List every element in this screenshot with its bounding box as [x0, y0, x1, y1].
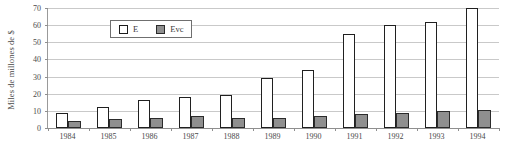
bar-group [302, 8, 327, 128]
y-axis-tick-labels: 010203040506070 [22, 8, 44, 128]
bar-evc-1985 [109, 119, 122, 128]
x-tick-label: 1994 [470, 132, 486, 141]
bar-evc-1991 [355, 114, 368, 128]
legend-swatch-e-icon [119, 25, 128, 34]
x-tick-mark [212, 128, 213, 131]
bar-evc-1990 [314, 116, 327, 128]
legend-label-evc: Evc [170, 24, 183, 34]
x-tick-label: 1988 [224, 132, 240, 141]
bar-evc-1984 [68, 121, 81, 128]
bar-group [425, 8, 450, 128]
x-tick-mark [335, 128, 336, 131]
gridline [48, 128, 499, 129]
y-tick-label: 50 [33, 38, 41, 47]
x-tick-label: 1989 [265, 132, 281, 141]
bar-e-1986 [138, 100, 151, 128]
y-tick-label: 30 [33, 72, 41, 81]
x-tick-label: 1993 [429, 132, 445, 141]
bar-evc-1989 [273, 118, 286, 128]
bar-group [466, 8, 491, 128]
bar-e-1989 [261, 78, 274, 128]
x-tick-label: 1991 [347, 132, 363, 141]
x-tick-mark [171, 128, 172, 131]
x-tick-mark [89, 128, 90, 131]
bar-evc-1986 [150, 118, 163, 128]
legend-swatch-evc-icon [156, 25, 165, 34]
bar-e-1984 [56, 113, 69, 128]
bar-group [384, 8, 409, 128]
bar-chart: Miles de millones de $ 010203040506070 1… [0, 0, 509, 161]
y-tick-label: 20 [33, 89, 41, 98]
bar-e-1992 [384, 25, 397, 128]
x-tick-mark [253, 128, 254, 131]
y-tick-label: 70 [33, 4, 41, 13]
bar-evc-1988 [232, 118, 245, 128]
x-tick-label: 1984 [60, 132, 76, 141]
bar-group [56, 8, 81, 128]
x-tick-mark [458, 128, 459, 131]
x-axis-tick-labels: 1984198519861987198819891990199119921993… [47, 132, 499, 148]
x-tick-mark [48, 128, 49, 131]
y-tick-label: 0 [37, 124, 41, 133]
bar-e-1990 [302, 70, 315, 128]
x-tick-label: 1985 [101, 132, 117, 141]
legend-label-e: E [133, 24, 138, 34]
bar-e-1988 [220, 95, 233, 128]
x-tick-label: 1992 [388, 132, 404, 141]
bar-group [261, 8, 286, 128]
bar-e-1985 [97, 107, 110, 128]
bar-group [343, 8, 368, 128]
legend-entry-evc: Evc [156, 24, 183, 34]
bar-e-1991 [343, 34, 356, 128]
bar-group [220, 8, 245, 128]
y-tick-label: 10 [33, 106, 41, 115]
chart-legend: E Evc [110, 20, 192, 38]
x-tick-label: 1990 [306, 132, 322, 141]
x-tick-mark [417, 128, 418, 131]
legend-entry-e: E [119, 24, 138, 34]
bar-e-1994 [466, 8, 479, 128]
y-tick-label: 60 [33, 21, 41, 30]
x-tick-mark [499, 128, 500, 131]
x-tick-mark [294, 128, 295, 131]
x-tick-mark [130, 128, 131, 131]
x-tick-mark [376, 128, 377, 131]
bar-evc-1987 [191, 116, 204, 128]
bar-evc-1994 [478, 110, 491, 128]
bar-evc-1992 [396, 113, 409, 128]
bar-e-1987 [179, 97, 192, 128]
x-tick-label: 1986 [142, 132, 158, 141]
y-tick-label: 40 [33, 55, 41, 64]
y-axis-title-text: Miles de millones de $ [6, 30, 16, 110]
bar-evc-1993 [437, 111, 450, 128]
y-axis-title: Miles de millones de $ [0, 0, 22, 140]
bar-e-1993 [425, 22, 438, 128]
x-tick-label: 1987 [183, 132, 199, 141]
